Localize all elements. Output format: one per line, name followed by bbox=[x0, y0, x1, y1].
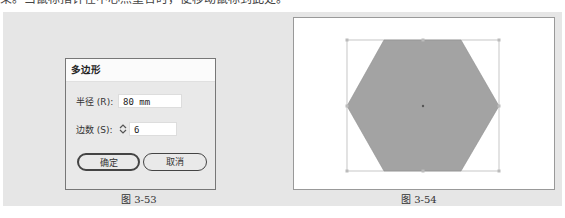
figure-caption-left: 图 3-53 bbox=[121, 191, 157, 206]
sides-label: 边数 (S): bbox=[76, 123, 118, 136]
clipped-body-text: 束。当鼠标指针在中心点重合时，便移动鼠标到此处。 bbox=[0, 0, 565, 6]
sides-row: 边数 (S): 6 bbox=[76, 122, 177, 136]
dialog-title: 多边形 bbox=[66, 59, 215, 82]
polygon-dialog: 多边形 半径 (R): 80 mm 边数 (S): 6 确定 取消 bbox=[65, 58, 216, 190]
sides-input[interactable]: 6 bbox=[129, 122, 177, 136]
ok-button[interactable]: 确定 bbox=[77, 153, 140, 171]
hexagon-drawing bbox=[294, 18, 556, 191]
artboard bbox=[293, 17, 555, 190]
cancel-button[interactable]: 取消 bbox=[143, 153, 207, 171]
center-point-icon bbox=[422, 105, 424, 107]
radius-label: 半径 (R): bbox=[76, 95, 118, 108]
stepper-icon[interactable] bbox=[118, 122, 127, 136]
radius-input[interactable]: 80 mm bbox=[118, 94, 182, 108]
figure-caption-right: 图 3-54 bbox=[401, 191, 437, 206]
radius-row: 半径 (R): 80 mm bbox=[76, 94, 182, 108]
